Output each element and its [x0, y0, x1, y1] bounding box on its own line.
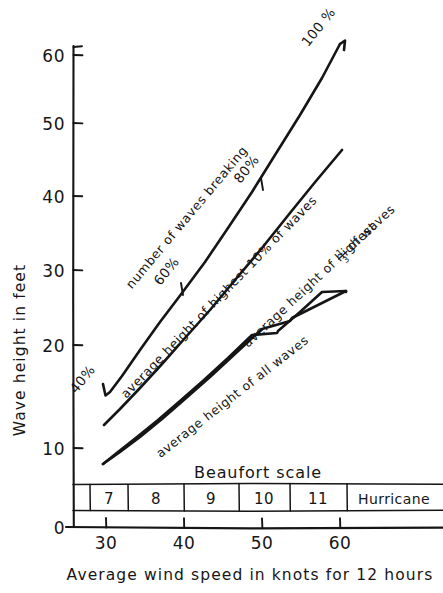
- y-tick-0: 0: [54, 518, 65, 538]
- pct-label-40: 40%: [66, 362, 98, 396]
- beaufort-cell-7: 7: [104, 490, 114, 508]
- beaufort-cell-10: 10: [254, 490, 274, 508]
- y-tick-50: 50: [42, 114, 65, 134]
- annotation-100-percent: 100 %: [298, 4, 339, 49]
- x-axis: [66, 527, 443, 528]
- wave-height-chart: 60 50 40 30 20 10 0 30 40 50 60 Wave hei…: [0, 0, 443, 593]
- y-tick-20: 20: [42, 336, 65, 356]
- curve-label-highest-one-third: average height of highest 1 3 of waves: [239, 201, 401, 354]
- beaufort-cell-9: 9: [206, 490, 216, 508]
- x-axis-title: Average wind speed in knots for 12 hours: [67, 566, 434, 584]
- x-tick-30: 30: [95, 533, 118, 553]
- curve-label-all-waves: average height of all waves: [153, 332, 311, 460]
- y-tick-40: 40: [42, 187, 65, 207]
- x-axis-tick-labels: 30 40 50 60: [95, 533, 352, 553]
- y-axis-tick-labels: 60 50 40 30 20 10 0: [42, 46, 65, 538]
- chart-canvas: 60 50 40 30 20 10 0 30 40 50 60 Wave hei…: [0, 0, 443, 593]
- y-tick-30: 30: [42, 261, 65, 281]
- x-tick-50: 50: [251, 533, 274, 553]
- x-tick-60: 60: [329, 533, 352, 553]
- y-axis: [73, 46, 82, 527]
- beaufort-cell-11: 11: [308, 490, 328, 508]
- pct-label-100: 100 %: [298, 4, 339, 49]
- y-axis-title: Wave height in feet: [11, 264, 29, 436]
- annotation-40-percent: 40%: [66, 362, 98, 396]
- beaufort-cell-8: 8: [151, 490, 161, 508]
- x-tick-40: 40: [173, 533, 196, 553]
- y-tick-10: 10: [42, 439, 65, 459]
- beaufort-cell-hurricane: Hurricane: [358, 491, 430, 507]
- curve-label-third-suffix: of waves: [344, 201, 398, 253]
- beaufort-scale-title: Beaufort scale: [194, 463, 322, 482]
- beaufort-scale-cells: 7 8 9 10 11 Hurricane: [104, 490, 430, 508]
- y-tick-60: 60: [42, 46, 65, 66]
- curve-label-number-of-waves-breaking: number of waves breaking: [123, 143, 251, 292]
